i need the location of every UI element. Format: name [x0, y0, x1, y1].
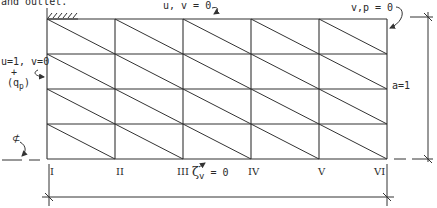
mesh-element-diagonal: [319, 89, 387, 124]
section-label-6: VI: [374, 166, 385, 177]
mesh-element-diagonal: [183, 54, 251, 89]
centerline-arrow-icon: [20, 142, 25, 156]
mesh-element-diagonal: [47, 19, 115, 54]
mesh-element-diagonal: [319, 19, 387, 54]
section-label-4: IV: [248, 166, 259, 177]
top-bc-arrow-icon: [212, 7, 218, 14]
inlet-flux-open: (q: [7, 77, 19, 88]
mesh-element-diagonal: [115, 19, 183, 54]
mesh-element-diagonal: [115, 54, 183, 89]
height-dimension-label: a=1: [392, 80, 410, 91]
mesh-element-diagonal: [183, 19, 251, 54]
outlet-boundary-condition: v,p = 0: [351, 2, 393, 13]
mesh-element-diagonal: [251, 19, 319, 54]
wall-hatch-icon: [47, 8, 78, 19]
mesh-element-diagonal: [115, 124, 183, 159]
mesh-element-diagonal: [47, 89, 115, 124]
vorticity-rest: = 0: [204, 167, 228, 178]
mesh-element-diagonal: [319, 124, 387, 159]
inlet-flux-close: ): [24, 77, 30, 88]
mesh-element-diagonal: [47, 124, 115, 159]
centerline-symbol: ⊄: [12, 133, 20, 144]
mesh-element-diagonal: [115, 89, 183, 124]
section-label-5: V: [318, 166, 325, 177]
mesh-element-diagonal: [183, 124, 251, 159]
mesh-grid: [47, 19, 387, 159]
mesh-element-diagonal: [251, 89, 319, 124]
mesh-element-diagonal: [47, 54, 115, 89]
mesh-element-diagonal: [319, 54, 387, 89]
vorticity-symbol: ζ: [192, 164, 199, 179]
mesh-element-diagonal: [251, 54, 319, 89]
caption-fragment: and outlet.: [1, 0, 67, 7]
top-boundary-condition: u, v = 0: [163, 0, 211, 11]
section-label-1: I: [50, 166, 54, 177]
mesh-element-diagonal: [251, 124, 319, 159]
inlet-bc-arrow-icon: [35, 70, 44, 77]
section-label-3: III: [177, 166, 189, 177]
mesh-element-diagonal: [183, 89, 251, 124]
section-label-2: II: [116, 166, 124, 177]
inlet-boundary-condition: u=1, v=0: [1, 56, 49, 67]
inlet-flux: (qp): [7, 77, 30, 92]
bottom-boundary-condition: ζv = 0: [192, 166, 229, 182]
